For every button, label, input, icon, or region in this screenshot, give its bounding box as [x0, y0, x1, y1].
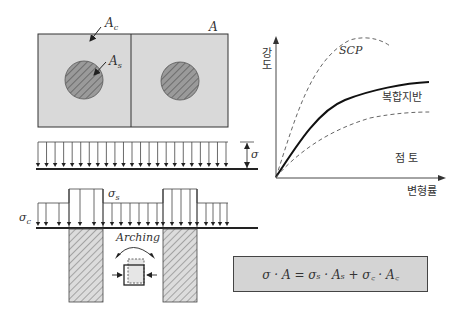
label-sigma: σ [251, 149, 259, 160]
plan-view [38, 27, 228, 127]
sand-column-right [163, 229, 197, 302]
soil-element-deformed [128, 259, 144, 283]
label-area-clay: Ac [105, 17, 118, 32]
sand-column-left [69, 229, 103, 302]
equilibrium-equation: σ · A = σₛ · Aₛ + σ꜀ · A꜀ [262, 266, 398, 283]
graph-ylabel-2: 도 [262, 60, 272, 71]
graph-xlabel: 변형률 [407, 186, 437, 197]
stress-strain-graph [273, 36, 446, 181]
composite-load-diagram [36, 189, 258, 302]
label-curve-clay: 점 토 [395, 153, 419, 164]
label-arching: Arching [116, 232, 160, 243]
label-area-sand: As [109, 55, 122, 70]
equilibrium-equation-box: σ · A = σₛ · Aₛ + σ꜀ · A꜀ [233, 256, 428, 292]
label-curve-scp: SCP [339, 45, 362, 56]
uniform-load-diagram [36, 142, 258, 169]
label-sigma-c: σc [19, 212, 31, 226]
label-curve-composite: 복합지반 [382, 92, 422, 103]
label-sigma-s: σs [108, 188, 120, 202]
label-area-total: A [209, 21, 218, 33]
sand-column-circle-left [65, 61, 103, 99]
composite-load-arrows [36, 189, 229, 226]
graph-ylabel-1: 강 [262, 48, 272, 59]
uniform-load-arrows [36, 142, 228, 167]
sand-column-circle-right [161, 62, 199, 100]
arching-arc-icon [117, 248, 153, 258]
